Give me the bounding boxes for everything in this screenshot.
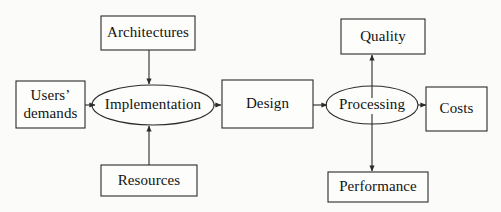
- node-shape-architectures: [101, 16, 195, 50]
- diagram-graphics: [0, 0, 501, 212]
- node-shape-quality: [341, 19, 425, 54]
- node-shape-design: [222, 80, 313, 128]
- node-shape-costs: [426, 87, 487, 131]
- node-shape-performance: [328, 172, 428, 202]
- diagram-canvas: Architectures Users’ demands Implementat…: [0, 0, 501, 212]
- node-shape-resources: [101, 165, 197, 196]
- node-shape-users-demands: [16, 81, 85, 128]
- node-shape-implementation: [92, 85, 214, 125]
